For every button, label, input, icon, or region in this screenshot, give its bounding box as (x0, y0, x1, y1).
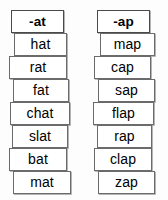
word-card-fat[interactable]: fat (13, 79, 69, 102)
word-card-rat[interactable]: rat (9, 56, 67, 79)
column-header-ap: -ap (97, 10, 150, 33)
word-card-slat[interactable]: slat (12, 125, 68, 148)
word-card-bat[interactable]: bat (9, 148, 67, 171)
word-card-mat[interactable]: mat (13, 171, 71, 194)
word-card-zap[interactable]: zap (98, 171, 155, 194)
word-family-chart: -at hat rat fat chat slat bat mat -ap ma… (0, 0, 168, 200)
word-card-rap[interactable]: rap (97, 125, 152, 148)
column-header-at: -at (11, 10, 64, 33)
word-card-chat[interactable]: chat (10, 102, 70, 125)
word-card-cap[interactable]: cap (94, 56, 151, 79)
word-card-flap[interactable]: flap (93, 102, 154, 125)
word-card-map[interactable]: map (100, 33, 155, 56)
word-family-column-ap: -ap map cap sap flap rap clap zap (84, 0, 168, 200)
word-family-column-at: -at hat rat fat chat slat bat mat (0, 0, 84, 200)
word-card-sap[interactable]: sap (98, 79, 155, 102)
word-card-hat[interactable]: hat (14, 33, 67, 56)
word-card-clap[interactable]: clap (94, 148, 152, 171)
